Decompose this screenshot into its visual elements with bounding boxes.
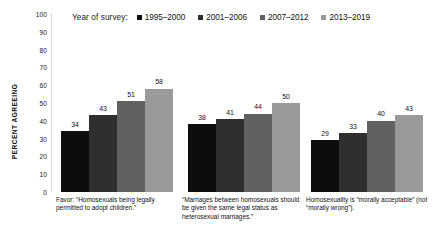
bar-2001-2006[interactable] — [339, 133, 367, 192]
bar-slot: 51 — [117, 14, 145, 192]
bar-2013-2019[interactable] — [145, 89, 173, 192]
y-axis-tick-90: 90 — [23, 28, 47, 35]
bar-value-label: 43 — [99, 106, 106, 113]
y-axis-tick-10: 10 — [23, 171, 47, 178]
y-axis-tick-0: 0 — [23, 189, 47, 196]
y-axis-tick-100: 100 — [23, 11, 47, 18]
bar-value-label: 51 — [127, 92, 134, 99]
bar-slot: 38 — [188, 14, 216, 192]
y-axis-title: PERCENT AGREEING — [5, 0, 23, 243]
bar-value-label: 40 — [377, 111, 384, 118]
bar-group-1: 34435158 — [61, 14, 173, 192]
bar-group-bars: 29334043 — [311, 14, 423, 192]
bar-group-bars: 34435158 — [61, 14, 173, 192]
bar-group-bars: 38414450 — [188, 14, 300, 192]
bar-1995-2000[interactable] — [61, 131, 89, 192]
bar-2013-2019[interactable] — [272, 103, 300, 192]
bar-slot: 44 — [244, 14, 272, 192]
bar-slot: 43 — [395, 14, 423, 192]
group-caption-3: Homosexuality is “morally acceptable” (n… — [306, 193, 432, 213]
bar-value-label: 50 — [282, 94, 289, 101]
bar-2007-2012[interactable] — [244, 114, 272, 192]
bar-2001-2006[interactable] — [89, 115, 117, 192]
bar-value-label: 41 — [226, 110, 233, 117]
bar-chart-figure: Year of survey: 1995–20002001–20062007–2… — [0, 0, 436, 243]
bar-2001-2006[interactable] — [216, 119, 244, 192]
y-axis-tick-80: 80 — [23, 46, 47, 53]
group-caption-2: “Marriages between homosexuals should be… — [182, 193, 304, 221]
bar-slot: 40 — [367, 14, 395, 192]
bar-value-label: 43 — [405, 106, 412, 113]
y-axis-tick-70: 70 — [23, 64, 47, 71]
bar-1995-2000[interactable] — [311, 140, 339, 192]
bar-value-label: 58 — [155, 79, 162, 86]
bar-slot: 50 — [272, 14, 300, 192]
bar-1995-2000[interactable] — [188, 124, 216, 192]
bar-value-label: 33 — [349, 124, 356, 131]
y-axis-tick-50: 50 — [23, 100, 47, 107]
y-axis-tick-20: 20 — [23, 153, 47, 160]
bar-2013-2019[interactable] — [395, 115, 423, 192]
bar-group-3: 29334043 — [311, 14, 423, 192]
y-axis-tick-30: 30 — [23, 135, 47, 142]
bar-value-label: 34 — [71, 122, 78, 129]
bar-2007-2012[interactable] — [367, 121, 395, 192]
bar-2007-2012[interactable] — [117, 101, 145, 192]
group-caption-1: Favor: “Homosexuals being legally permit… — [56, 193, 174, 213]
bar-slot: 43 — [89, 14, 117, 192]
bar-slot: 41 — [216, 14, 244, 192]
y-axis-tick-60: 60 — [23, 82, 47, 89]
plot-area: 344351583841445029334043 — [51, 14, 433, 192]
bar-value-label: 44 — [254, 104, 261, 111]
bar-slot: 34 — [61, 14, 89, 192]
bar-value-label: 29 — [321, 131, 328, 138]
y-axis-ticks: 1009080706050403020100 — [23, 14, 47, 192]
bar-value-label: 38 — [198, 115, 205, 122]
bar-slot: 29 — [311, 14, 339, 192]
bar-slot: 58 — [145, 14, 173, 192]
bar-slot: 33 — [339, 14, 367, 192]
y-axis-tick-40: 40 — [23, 117, 47, 124]
bar-group-2: 38414450 — [188, 14, 300, 192]
